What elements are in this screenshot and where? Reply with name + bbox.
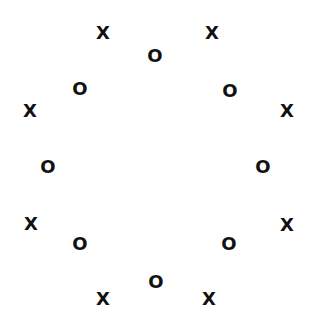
- symbol-o: O: [221, 235, 236, 253]
- symbol-x: X: [96, 290, 110, 308]
- symbol-o: O: [72, 80, 87, 98]
- xo-ring-diagram: X O X O X O X O X O X O X O X O: [0, 0, 312, 329]
- symbol-x: X: [280, 216, 294, 234]
- symbol-x: X: [23, 102, 37, 120]
- symbol-o: O: [148, 273, 163, 291]
- symbol-x: X: [280, 102, 294, 120]
- symbol-o: O: [255, 158, 270, 176]
- symbol-o: O: [72, 235, 87, 253]
- symbol-o: O: [147, 47, 162, 65]
- symbol-o: O: [40, 158, 55, 176]
- symbol-x: X: [24, 215, 38, 233]
- symbol-x: X: [96, 24, 110, 42]
- symbol-o: O: [222, 82, 237, 100]
- symbol-x: X: [202, 290, 216, 308]
- symbol-x: X: [205, 24, 219, 42]
